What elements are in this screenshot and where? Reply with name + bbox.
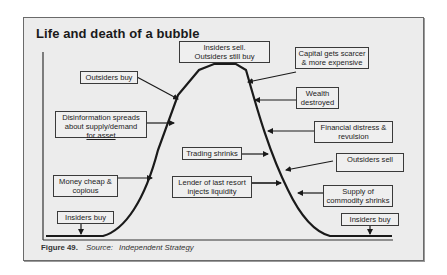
label-line: Insiders sell. — [182, 43, 267, 52]
label-line: Insiders buy — [344, 215, 396, 224]
figure-number: Figure 49. — [41, 243, 78, 252]
label-line: Wealth — [299, 89, 336, 98]
label-line: destroyed — [299, 98, 336, 107]
label-money-cheap: Money cheap & copious — [53, 175, 118, 197]
label-line: Outsiders still buy — [182, 52, 267, 61]
label-insiders-sell: Insiders sell. Outsiders still buy — [179, 41, 270, 63]
label-lender-last-resort: Lender of last resort injects liquidity — [172, 176, 252, 198]
figure-caption: Figure 49. Source: Independent Strategy — [41, 243, 194, 252]
label-insiders-buy-left: Insiders buy — [57, 211, 114, 224]
label-line: Money cheap & — [56, 177, 115, 186]
label-trading-shrinks: Trading shrinks — [182, 147, 242, 160]
label-line: about supply/demand — [58, 122, 144, 131]
label-line: Financial distress & — [317, 123, 390, 132]
label-insiders-buy-right: Insiders buy — [341, 213, 399, 226]
source-label: Source: — [86, 243, 113, 252]
label-line: Capital gets scarcer — [298, 49, 366, 58]
label-line: copious — [56, 186, 115, 195]
label-line: Outsiders sell — [339, 155, 401, 164]
label-outsiders-buy: Outsiders buy — [80, 71, 138, 84]
label-line: Lender of last resort — [175, 178, 249, 187]
label-line: Trading shrinks — [185, 149, 239, 158]
label-supply-shrinks: Supply of commodity shrinks — [323, 185, 393, 207]
label-financial-distress: Financial distress & revulsion — [314, 121, 393, 143]
label-line: Outsiders buy — [83, 73, 135, 82]
label-line: Supply of — [326, 187, 390, 196]
source-name: Independent Strategy — [119, 243, 194, 252]
arrow-capital-scarcer — [248, 72, 296, 82]
label-line: Disinformation spreads — [58, 113, 144, 122]
label-outsiders-sell: Outsiders sell — [336, 153, 404, 172]
label-line: for asset — [58, 131, 144, 140]
label-line: Insiders buy — [60, 213, 111, 222]
label-wealth-destroyed: Wealth destroyed — [296, 87, 339, 109]
label-capital-scarcer: Capital gets scarcer & more expensive — [295, 47, 369, 69]
label-line: injects liquidity — [175, 187, 249, 196]
arrow-outsiders-buy — [137, 77, 178, 99]
label-line: & more expensive — [298, 58, 366, 67]
label-disinformation: Disinformation spreads about supply/dema… — [55, 111, 147, 138]
label-line: commodity shrinks — [326, 196, 390, 205]
arrow-outsiders-sell — [286, 161, 333, 170]
label-line: revulsion — [317, 132, 390, 141]
